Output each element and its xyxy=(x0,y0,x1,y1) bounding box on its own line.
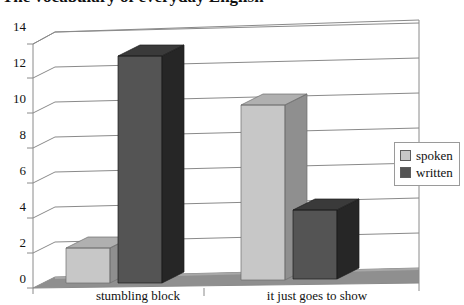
x-label-it-just-goes-to-show: it just goes to show xyxy=(212,288,422,304)
left-wall xyxy=(33,32,55,288)
bar-written-it-just-goes-to-show xyxy=(293,199,359,279)
legend-swatch-written xyxy=(400,167,411,178)
y-axis-ticks xyxy=(27,44,33,288)
legend-item-written[interactable]: written xyxy=(400,164,453,181)
legend-swatch-spoken xyxy=(400,150,411,161)
legend-label-written: written xyxy=(416,166,453,179)
bar-written-stumbling-block xyxy=(118,45,184,283)
chart-container: The vocabulary of everyday English 0 2 4… xyxy=(0,0,464,305)
legend-label-spoken: spoken xyxy=(416,149,453,162)
x-label-stumbling-block: stumbling block xyxy=(48,288,228,304)
chart-legend: spoken written xyxy=(394,142,460,186)
legend-item-spoken[interactable]: spoken xyxy=(400,147,453,164)
